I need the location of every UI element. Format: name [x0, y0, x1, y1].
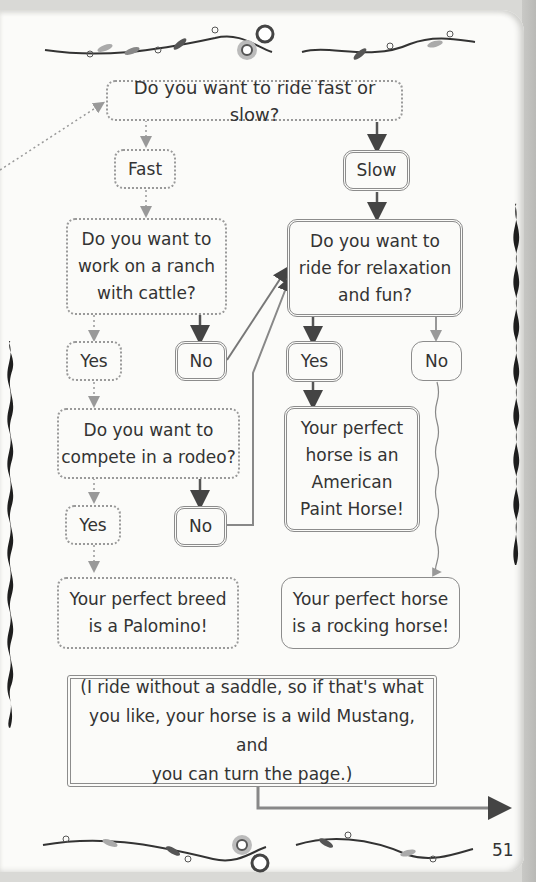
- result-rocking-horse-box: Your perfect horse is a rocking horse!: [281, 577, 460, 649]
- page-edge: [522, 0, 536, 882]
- rodeo-question-box: Do you want to compete in a rodeo?: [57, 408, 240, 479]
- result-american-paint-box: Your perfect horse is an American Paint …: [284, 406, 420, 532]
- answer-fast-box: Fast: [114, 149, 176, 189]
- mustang-note-box: (I ride without a saddle, so if that's w…: [67, 675, 437, 787]
- answer-slow-box: Slow: [343, 150, 410, 191]
- relax-no-box: No: [411, 341, 462, 381]
- ranch-question-box: Do you want to work on a ranch with catt…: [66, 218, 227, 315]
- ranch-yes-box: Yes: [66, 341, 122, 381]
- rodeo-yes-box: Yes: [65, 505, 121, 545]
- bottom-vine-ornament: [38, 825, 478, 875]
- ranch-no-box: No: [175, 341, 227, 381]
- page-number: 51: [492, 840, 514, 860]
- right-scroll-border: [508, 100, 522, 670]
- left-scroll-border: [2, 230, 16, 840]
- start-question-box: Do you want to ride fast or slow?: [106, 80, 403, 121]
- top-vine-ornament: [40, 22, 480, 72]
- rodeo-no-box: No: [174, 506, 227, 547]
- relaxation-question-box: Do you want to ride for relaxation and f…: [287, 219, 463, 317]
- relax-yes-box: Yes: [286, 341, 343, 382]
- result-palomino-box: Your perfect breed is a Palomino!: [57, 577, 239, 649]
